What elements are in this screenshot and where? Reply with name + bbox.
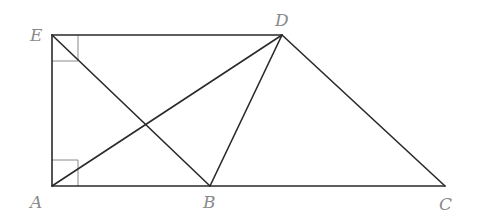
- segment-dc: [282, 35, 445, 186]
- point-label-d: D: [274, 10, 289, 30]
- segment-bd: [210, 35, 282, 186]
- point-label-a: A: [28, 192, 42, 212]
- segment-eb: [52, 35, 210, 186]
- segment-ad: [52, 35, 282, 186]
- geometry-diagram: E D A B C: [0, 0, 480, 216]
- point-label-c: C: [439, 194, 452, 214]
- right-angle-marker-a: [52, 160, 78, 186]
- point-label-e: E: [29, 25, 43, 45]
- point-label-b: B: [202, 192, 216, 212]
